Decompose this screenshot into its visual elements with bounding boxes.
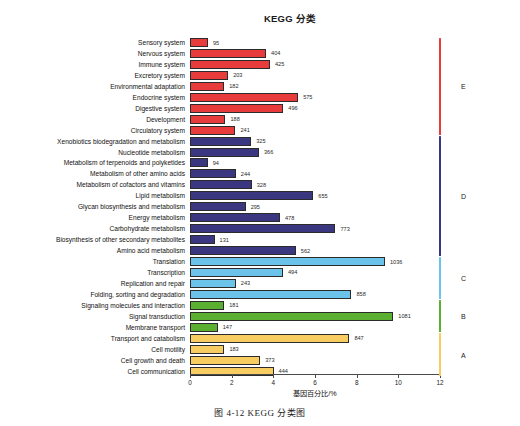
bar [190, 356, 260, 365]
x-tick-label: 6 [313, 379, 317, 386]
bar [190, 345, 224, 354]
bar [190, 169, 236, 178]
group-bracket-e [439, 38, 441, 136]
bar-value-label: 444 [279, 365, 288, 378]
x-tick-label: 4 [272, 379, 276, 386]
bar [190, 158, 208, 167]
x-tick-label: 8 [355, 379, 359, 386]
group-bracket-c [439, 257, 441, 300]
bar [190, 49, 266, 58]
bar [190, 82, 224, 91]
figure-caption: 图 4-12 KEGG 分类图 [0, 406, 520, 419]
x-tick [273, 374, 274, 378]
bar [190, 235, 215, 244]
bar [190, 93, 298, 102]
bar [190, 126, 235, 135]
plot-area: Sensory system95Nervous system404Immune … [190, 36, 440, 374]
bar [190, 191, 313, 200]
bar [190, 180, 252, 189]
bar [190, 224, 335, 233]
group-bracket-d [439, 136, 441, 256]
category-label: Cell communication [127, 365, 185, 378]
x-tick-label: 2 [230, 379, 234, 386]
group-bracket-a [439, 333, 441, 376]
bar [190, 38, 208, 47]
bar [190, 246, 296, 255]
x-tick-label: 12 [436, 379, 443, 386]
x-tick [190, 374, 191, 378]
x-tick [232, 374, 233, 378]
x-tick [398, 374, 399, 378]
bar [190, 104, 283, 113]
group-letter-e: E [461, 83, 466, 90]
bar [190, 290, 351, 299]
x-tick [357, 374, 358, 378]
bar [190, 279, 236, 288]
bar [190, 334, 349, 343]
bar [190, 71, 228, 80]
bar [190, 60, 270, 69]
x-tick-label: 10 [395, 379, 402, 386]
bar [190, 202, 246, 211]
bar [190, 148, 259, 157]
bar [190, 137, 251, 146]
x-tick [315, 374, 316, 378]
bar [190, 115, 225, 124]
group-letter-a: A [461, 351, 466, 358]
bar [190, 268, 283, 277]
group-letter-d: D [461, 192, 466, 199]
group-letter-c: C [461, 274, 466, 281]
bar [190, 312, 393, 321]
kegg-classification-figure: KEGG 分类 Sensory system95Nervous system40… [0, 0, 520, 426]
chart-title: KEGG 分类 [30, 11, 520, 25]
x-tick-label: 0 [188, 379, 192, 386]
bar [190, 213, 280, 222]
bar [190, 257, 385, 266]
x-axis-label: 基因百分比/% [190, 388, 440, 398]
bar [190, 323, 218, 332]
group-bracket-b [439, 300, 441, 332]
group-letter-b: B [461, 313, 466, 320]
bar [190, 301, 224, 310]
